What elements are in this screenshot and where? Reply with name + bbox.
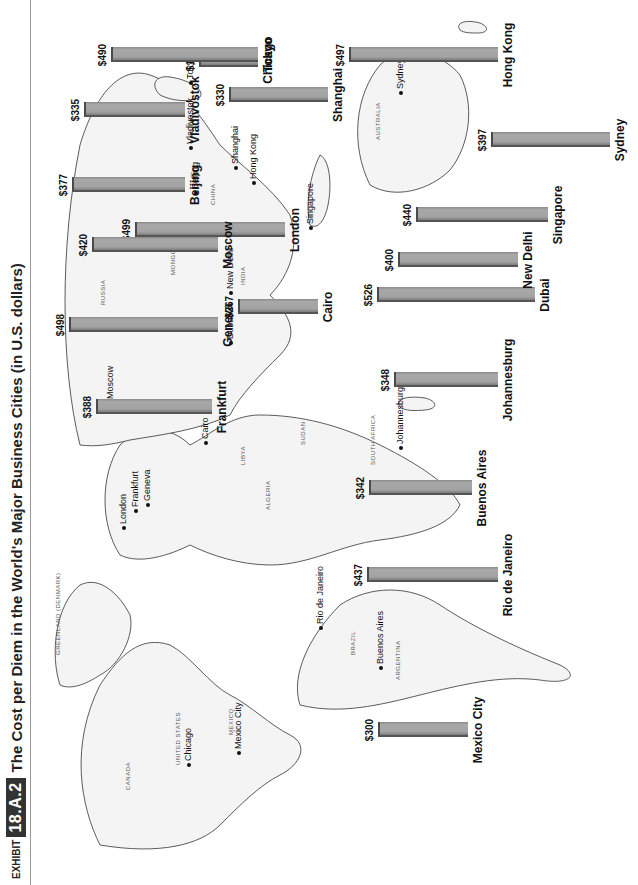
map-marker-london: London: [118, 494, 128, 530]
bar-shanghai: [229, 87, 328, 102]
bar-sydney: [491, 132, 610, 147]
header-divider: [30, 0, 31, 885]
bar-city-label: New Delhi: [521, 231, 535, 288]
bar-city-label: Johannesburg: [501, 339, 515, 422]
bar-city-label: Geneva: [221, 303, 235, 346]
bar-city-label: Singapore: [551, 186, 565, 245]
map-marker-johannesburg: Johannesburg: [395, 387, 405, 450]
map-marker-shanghai: Shanghai: [230, 126, 240, 170]
city-dot-icon: [399, 446, 403, 450]
bar-tokyo: [111, 47, 258, 62]
map-marker-hong-kong: Hong Kong: [248, 134, 258, 185]
country-label-argentina: ARGENTINA: [395, 640, 401, 680]
country-label-india: INDIA: [240, 266, 246, 285]
bar-city-label: Buenos Aires: [475, 450, 489, 527]
bar-value-label: $348: [380, 369, 391, 391]
country-label-algeria: ALGERIA: [265, 480, 271, 510]
exhibit-number: 18.A.2: [6, 778, 26, 836]
bar-value-label: $335: [70, 99, 81, 121]
city-dot-icon: [252, 181, 256, 185]
country-label-china: CHINA: [210, 184, 216, 205]
bar-dubai: [377, 287, 535, 302]
bar-value-label: $388: [82, 396, 93, 418]
bar-frankfurt: [96, 399, 212, 414]
bar-cairo: [238, 299, 318, 314]
city-dot-icon: [146, 503, 150, 507]
bar-city-label: Shanghai: [331, 68, 345, 122]
map-marker-buenos-aires: Buenos Aires: [375, 611, 385, 670]
bar-value-label: $420: [78, 234, 89, 256]
country-label-russia: RUSSIA: [100, 280, 106, 305]
country-label-south-africa: SOUTH AFRICA: [370, 415, 376, 465]
chart-title: The Cost per Diem in the World's Major B…: [8, 263, 25, 772]
city-dot-icon: [134, 509, 138, 513]
country-label-brazil: BRAZIL: [350, 631, 356, 655]
bar-value-label: $437: [353, 564, 364, 586]
bar-geneva: [69, 317, 218, 332]
bar-value-label: $330: [215, 84, 226, 106]
bar-value-label: $440: [402, 204, 413, 226]
bar-city-label: London: [288, 208, 302, 252]
city-dot-icon: [122, 526, 126, 530]
chart-header: EXHIBIT 18.A.2 The Cost per Diem in the …: [6, 263, 26, 879]
city-dot-icon: [399, 91, 403, 95]
city-dot-icon: [237, 751, 241, 755]
map-marker-sydney: Sydney: [395, 59, 405, 95]
country-label-greenland: GREENLAND (DENMARK): [55, 572, 61, 655]
bar-london: [135, 222, 285, 237]
bar-city-label: Dubai: [538, 278, 552, 311]
city-dot-icon: [204, 441, 208, 445]
bar-city-label: Mexico City: [471, 697, 485, 764]
bar-value-label: $498: [55, 314, 66, 336]
bar-rio-de-janeiro: [367, 567, 498, 582]
exhibit-badge: EXHIBIT 18.A.2: [6, 778, 26, 879]
city-dot-icon: [189, 146, 193, 150]
bar-beijing: [72, 177, 185, 192]
bar-value-label: $497: [335, 44, 346, 66]
map-marker-frankfurt: Frankfurt: [130, 471, 140, 513]
bar-vladivostok: [84, 102, 185, 117]
bar-moscow: [92, 237, 218, 252]
chart-canvas: EXHIBIT 18.A.2 The Cost per Diem in the …: [0, 0, 638, 885]
country-label-canada: CANADA: [125, 762, 131, 790]
bar-value-label: $397: [477, 129, 488, 151]
bar-mexico-city: [378, 722, 468, 737]
map-marker-chicago: Chicago: [183, 728, 193, 767]
map-marker-rio-de-janeiro: Rio de Janeiro: [315, 566, 325, 630]
bar-value-label: $300: [364, 719, 375, 741]
map-marker-geneva: Geneva: [142, 469, 152, 507]
country-label-libya: LIBYA: [240, 446, 246, 465]
bar-city-label: Beijing: [188, 165, 202, 205]
bar-buenos-aires: [369, 480, 472, 495]
bar-city-label: Sydney: [613, 119, 627, 162]
map-marker-cairo: Cairo: [200, 417, 210, 445]
country-label-united-states: UNITED STATES: [175, 712, 181, 765]
bar-city-label: Vladivostok: [188, 76, 202, 143]
bar-city-label: Moscow: [221, 221, 235, 268]
bar-city-label: Frankfurt: [215, 381, 229, 434]
city-dot-icon: [187, 763, 191, 767]
exhibit-prefix: EXHIBIT: [11, 840, 22, 879]
map-marker-singapore: Singapore: [305, 183, 315, 230]
bar-johannesburg: [394, 372, 498, 387]
city-dot-icon: [379, 666, 383, 670]
bar-city-label: Rio de Janeiro: [501, 534, 515, 617]
bar-value-label: $526: [363, 284, 374, 306]
bar-value-label: $400: [384, 249, 395, 271]
bar-value-label: $490: [97, 44, 108, 66]
bar-value-label: $342: [355, 477, 366, 499]
country-label-sudan: SUDAN: [300, 421, 306, 445]
city-dot-icon: [319, 626, 323, 630]
bar-city-label: Hong Kong: [501, 23, 515, 88]
bar-new-delhi: [398, 252, 518, 267]
map-marker-mexico-city: Mexico City: [233, 702, 243, 755]
city-dot-icon: [229, 291, 233, 295]
bar-city-label: Tokyo: [261, 38, 275, 72]
bar-singapore: [416, 207, 548, 222]
bar-city-label: Cairo: [321, 292, 335, 323]
bar-hong-kong: [349, 47, 498, 62]
country-label-australia: AUSTRALIA: [375, 102, 381, 140]
bar-value-label: $377: [58, 174, 69, 196]
city-dot-icon: [309, 226, 313, 230]
city-dot-icon: [234, 166, 238, 170]
